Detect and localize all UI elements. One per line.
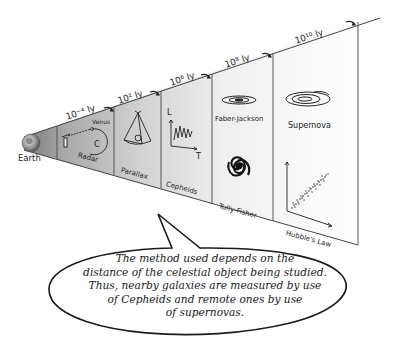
earth-label: Earth (18, 153, 41, 163)
callout-line-3: Thus, nearby galaxies are measured by us… (80, 279, 330, 293)
earth-icon (22, 134, 40, 152)
cepheid-axis-t: T (196, 152, 201, 161)
callout-line-4: of Cepheids and remote ones by use (80, 293, 330, 307)
venus-label: Venus (92, 118, 110, 125)
distance-cone (24, 18, 380, 245)
callout-text: The method used depends on the distance … (80, 252, 330, 320)
svg-text:C: C (94, 140, 100, 149)
cepheid-axis-l: L (167, 108, 171, 117)
faber-jackson-label: Faber-Jackson (215, 115, 263, 123)
callout-line-5: of supernovas. (80, 306, 330, 320)
supernova-label: Supernova (288, 121, 331, 130)
callout-line-2: distance of the celestial object being s… (80, 266, 330, 280)
distance-ladder-diagram: C (0, 0, 401, 345)
callout-line-1: The method used depends on the (80, 252, 330, 266)
